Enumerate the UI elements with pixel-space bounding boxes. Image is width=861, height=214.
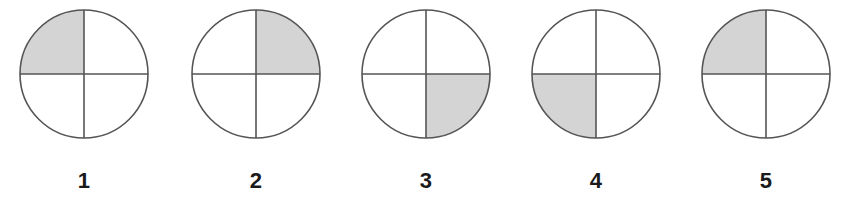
quadrant-circle-svg (181, 0, 331, 155)
circle-graphic-4 (521, 0, 671, 155)
shaded-quadrant-bottom-left (532, 74, 596, 138)
shaded-quadrant-bottom-right (426, 74, 490, 138)
circle-item: 1 (9, 0, 159, 214)
circle-label: 2 (181, 168, 331, 194)
circle-graphic-3 (351, 0, 501, 155)
circle-graphic-2 (181, 0, 331, 155)
quadrant-circles-figure: 12345 (0, 0, 861, 214)
circle-graphic-1 (9, 0, 159, 155)
shaded-quadrant-top-left (702, 10, 766, 74)
circle-graphic-5 (691, 0, 841, 155)
circle-label: 4 (521, 168, 671, 194)
circle-label: 5 (691, 168, 841, 194)
circle-item: 5 (691, 0, 841, 214)
circle-label: 3 (351, 168, 501, 194)
circle-item: 4 (521, 0, 671, 214)
quadrant-circle-svg (9, 0, 159, 155)
quadrant-circle-svg (351, 0, 501, 155)
circle-item: 3 (351, 0, 501, 214)
quadrant-circle-svg (691, 0, 841, 155)
circle-item: 2 (181, 0, 331, 214)
shaded-quadrant-top-left (20, 10, 84, 74)
circle-label: 1 (9, 168, 159, 194)
shaded-quadrant-top-right (256, 10, 320, 74)
quadrant-circle-svg (521, 0, 671, 155)
